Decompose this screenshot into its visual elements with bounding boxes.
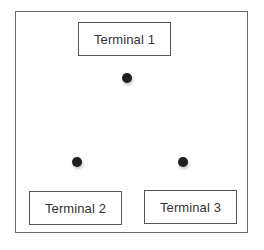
terminal-2-label: Terminal 2: [45, 201, 106, 216]
point-1-dot-icon: [122, 73, 132, 83]
terminal-3-box: Terminal 3: [144, 190, 237, 224]
terminal-2-box: Terminal 2: [29, 191, 122, 225]
point-3-dot-icon: [178, 157, 188, 167]
terminal-1-label: Terminal 1: [94, 32, 155, 47]
terminal-3-label: Terminal 3: [160, 200, 221, 215]
point-2-dot-icon: [72, 157, 82, 167]
terminal-1-box: Terminal 1: [78, 22, 171, 56]
